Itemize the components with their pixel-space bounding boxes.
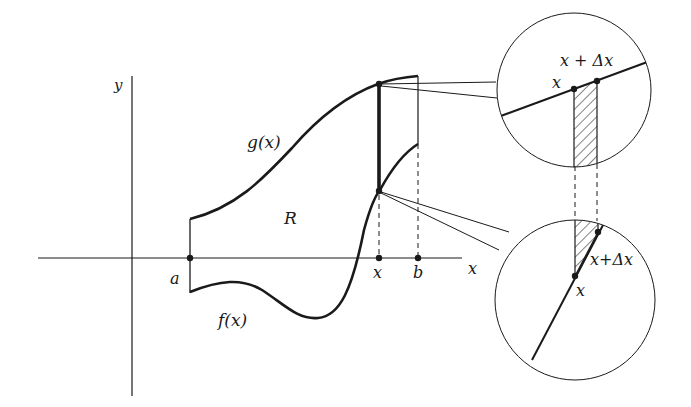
lower-point-x [572,273,578,279]
upper-point-x [571,86,577,92]
x-axis-label: x [468,259,477,278]
upper-label-x-dx: x + Δx [560,51,613,70]
label-f: f(x) [216,310,247,330]
upper-magnifier: x x + Δx [490,13,651,200]
upper-label-x: x [552,73,561,92]
leader-lower-2 [381,193,499,250]
curve-f [190,144,418,318]
point-x [376,255,382,261]
lower-label-x-dx: x+Δx [590,250,633,269]
point-b [415,255,421,261]
area-between-curves-diagram: y x a g(x) f(x) R x b x x + Δx [0,0,691,407]
lower-point-x-dx [595,229,601,235]
label-x-point: x [373,263,382,282]
label-b: b [413,263,423,282]
label-region-r: R [283,208,297,228]
lower-magnifier: x x+Δx [495,200,655,380]
diagram-stage: y x a g(x) f(x) R x b x x + Δx [0,0,691,407]
upper-point-x-dx [594,78,600,84]
lower-label-x: x [576,281,585,300]
upper-hatched-strip [574,81,597,200]
label-g: g(x) [247,132,281,152]
curve-g [190,76,418,219]
y-axis-label: y [113,76,123,94]
leader-upper-2 [381,86,497,98]
point-a [187,255,193,261]
leader-upper-1 [381,82,496,84]
label-a: a [170,269,180,288]
leader-lower-1 [381,192,509,232]
